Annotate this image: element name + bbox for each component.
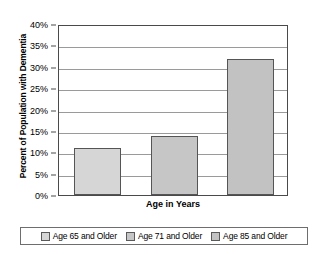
y-axis-tick-labels: 0%5%10%15%20%25%30%35%40% <box>0 25 56 196</box>
dementia-by-age-bar-chart: Percent of Population with Dementia 0%5%… <box>0 0 325 254</box>
y-axis-tick-label: 40% <box>30 20 48 30</box>
bar <box>151 136 198 195</box>
y-axis-tick-label: 10% <box>30 148 48 158</box>
y-axis-tick-mark <box>51 174 56 175</box>
legend-swatch-icon <box>211 232 220 241</box>
y-axis-tick-label: 15% <box>30 127 48 137</box>
y-axis-tick-label: 30% <box>30 63 48 73</box>
legend-item[interactable]: Age 71 and Older <box>126 231 202 241</box>
legend-label: Age 65 and Older <box>53 231 117 241</box>
y-axis-tick-mark <box>51 89 56 90</box>
y-axis-tick-label: 25% <box>30 84 48 94</box>
y-axis-tick-mark <box>51 46 56 47</box>
legend-item[interactable]: Age 65 and Older <box>41 231 117 241</box>
y-axis-tick-label: 0% <box>35 191 48 201</box>
y-axis-tick-label: 20% <box>30 106 48 116</box>
y-axis-tick-label: 5% <box>35 170 48 180</box>
y-axis-tick-mark <box>51 196 56 197</box>
y-axis-tick-mark <box>51 110 56 111</box>
legend-swatch-icon <box>126 232 135 241</box>
legend-label: Age 71 and Older <box>138 231 202 241</box>
y-axis-tick-mark <box>51 153 56 154</box>
bars-layer <box>59 26 287 195</box>
y-axis-tick-mark <box>51 25 56 26</box>
bar <box>74 148 121 195</box>
y-axis-tick-label: 35% <box>30 41 48 51</box>
chart-legend: Age 65 and OlderAge 71 and OlderAge 85 a… <box>20 227 308 245</box>
bar <box>227 59 274 195</box>
x-axis-title: Age in Years <box>58 199 288 209</box>
y-axis-tick-mark <box>51 131 56 132</box>
legend-swatch-icon <box>41 232 50 241</box>
plot-area <box>58 25 288 196</box>
legend-label: Age 85 and Older <box>223 231 287 241</box>
y-axis-tick-mark <box>51 67 56 68</box>
legend-item[interactable]: Age 85 and Older <box>211 231 287 241</box>
